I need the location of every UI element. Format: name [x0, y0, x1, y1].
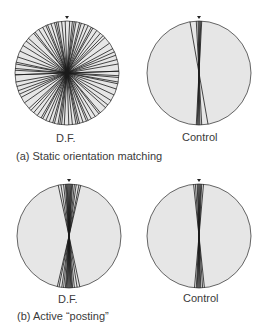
orientation-disc-b-control: [147, 179, 251, 288]
caption-b: (b) Active “posting”: [17, 310, 109, 322]
orientation-disc-b-df: [17, 179, 121, 288]
orientation-disc-a-control: [147, 16, 251, 125]
orientation-disc-a-df: [15, 16, 119, 125]
vertical-marker-icon: [65, 16, 69, 19]
vertical-marker-icon: [197, 16, 201, 19]
label-a-df: D.F.: [56, 132, 76, 144]
vertical-marker-icon: [67, 179, 71, 182]
label-a-control: Control: [182, 131, 217, 143]
vertical-marker-icon: [197, 179, 201, 182]
label-b-df: D.F.: [58, 293, 78, 305]
caption-a: (a) Static orientation matching: [16, 150, 162, 162]
label-b-control: Control: [183, 292, 218, 304]
orientation-figure: [0, 0, 266, 331]
